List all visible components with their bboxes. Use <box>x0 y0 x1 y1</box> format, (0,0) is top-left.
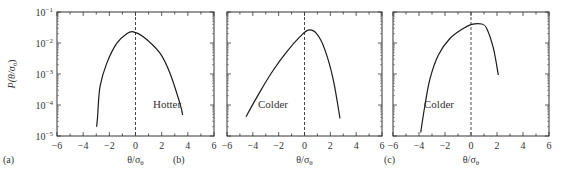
x-axis-label: θ/σθ <box>296 154 313 167</box>
x-tick-label: −6 <box>52 140 63 151</box>
x-tick-label: 2 <box>159 140 164 151</box>
x-tick-label: −4 <box>414 140 425 151</box>
pdf-curve <box>421 24 499 133</box>
annotation-label: Hotter <box>153 98 181 110</box>
x-tick-label: −4 <box>248 140 259 151</box>
x-tick-label: 0 <box>469 140 474 151</box>
annotation-label: Colder <box>424 98 454 110</box>
x-tick-label: 0 <box>302 140 307 151</box>
x-tick-label: 4 <box>354 140 359 151</box>
x-tick-label: 6 <box>380 140 385 151</box>
figure: P(θ/σθ) −6−4−2024610−510−410−310−210−1Ho… <box>0 0 563 177</box>
panel-letter: (a) <box>3 154 14 166</box>
x-tick-label: 0 <box>133 140 138 151</box>
x-tick-label: −2 <box>104 140 115 151</box>
x-tick-label: 6 <box>547 140 552 151</box>
panel-c: −6−4−20246Colderθ/σθ(c) <box>384 12 552 167</box>
y-tick-label: 10−3 <box>36 68 54 80</box>
annotation-label: Colder <box>258 98 288 110</box>
x-tick-label: −2 <box>440 140 451 151</box>
y-axis-label-main: P(θ/σ <box>6 65 18 89</box>
y-axis-label-close: ) <box>6 60 18 63</box>
x-tick-label: 2 <box>495 140 500 151</box>
y-tick-label: 10−2 <box>36 37 54 49</box>
x-tick-label: −2 <box>273 140 284 151</box>
pdf-curve <box>97 32 183 127</box>
x-tick-label: −4 <box>78 140 89 151</box>
panel-letter: (c) <box>384 154 395 166</box>
x-tick-label: 4 <box>185 140 190 151</box>
x-axis-label: θ/σθ <box>127 154 144 167</box>
x-tick-label: −6 <box>388 140 399 151</box>
x-tick-label: 4 <box>521 140 526 151</box>
x-tick-label: 6 <box>212 140 217 151</box>
panel-b: −6−4−20246Colderθ/σθ(b) <box>173 12 385 167</box>
y-axis-label: P(θ/σθ) <box>6 60 19 90</box>
x-tick-label: 2 <box>328 140 333 151</box>
x-axis-label: θ/σθ <box>463 154 480 167</box>
panel-letter: (b) <box>173 154 185 166</box>
panel-a: −6−4−2024610−510−410−310−210−1Hotterθ/σθ… <box>3 6 217 167</box>
x-tick-label: −6 <box>222 140 233 151</box>
y-tick-label: 10−1 <box>36 6 54 18</box>
y-tick-label: 10−4 <box>36 99 54 111</box>
